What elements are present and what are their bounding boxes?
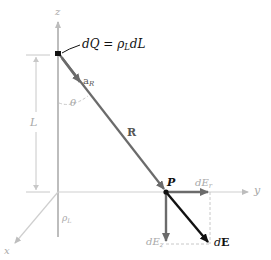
unit-vector-label: aR bbox=[83, 76, 94, 88]
dq-leader-line bbox=[62, 45, 80, 53]
charge-element-label: dQ = ρLdL bbox=[82, 38, 145, 51]
line-charge-field-diagram: z y x dQ = ρLdL aR θ L R P dEr dEz dE ρL bbox=[0, 0, 271, 260]
unit-vector-aR bbox=[62, 58, 80, 82]
x-axis-label: x bbox=[4, 246, 10, 256]
dEz-label: dEz bbox=[146, 237, 163, 249]
point-p-marker bbox=[163, 189, 168, 194]
dEr-label: dEr bbox=[195, 178, 212, 190]
length-label: L bbox=[30, 117, 37, 128]
x-axis bbox=[15, 192, 58, 243]
dE-label: dE bbox=[214, 237, 229, 248]
y-axis-label: y bbox=[254, 185, 260, 196]
r-vector-label: R bbox=[127, 127, 136, 138]
dE-vector bbox=[166, 192, 208, 242]
line-density-label: ρL bbox=[62, 214, 71, 224]
charge-element-marker bbox=[55, 51, 61, 56]
z-axis-label: z bbox=[55, 7, 60, 17]
point-p-label: P bbox=[167, 177, 175, 188]
theta-label: θ bbox=[70, 98, 76, 108]
